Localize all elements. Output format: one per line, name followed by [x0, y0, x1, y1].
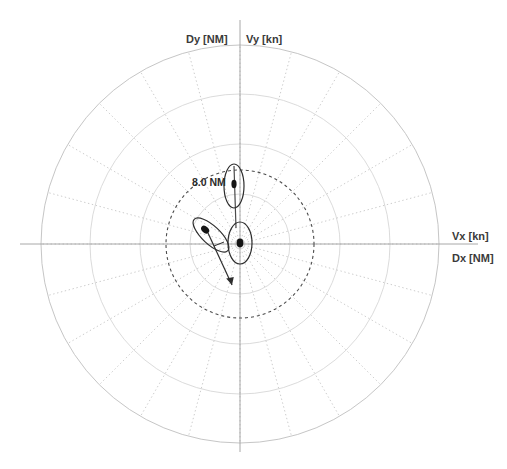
spoke-150	[68, 145, 240, 245]
spoke-210	[68, 244, 240, 344]
polar-chart-canvas: Dy [NM] Vy [kn] Vx [kn] Dx [NM] 8.0 NM	[0, 0, 507, 469]
polar-plot: Dy [NM] Vy [kn] Vx [kn] Dx [NM] 8.0 NM	[0, 0, 507, 469]
axis-label-dx: Dx [NM]	[452, 252, 494, 264]
spoke-15	[240, 192, 432, 244]
axis-label-dy: Dy [NM]	[186, 33, 228, 45]
uncertainty-ellipse-west	[188, 213, 234, 258]
spoke-300	[240, 244, 340, 416]
spoke-60	[240, 72, 340, 244]
spoke-120	[141, 72, 241, 244]
spoke-105	[188, 52, 240, 244]
spoke-255	[188, 244, 240, 436]
spoke-330	[240, 244, 412, 344]
spoke-315	[240, 244, 381, 385]
velocity-vector-head	[226, 277, 234, 285]
velocity-vector-arrow	[208, 233, 234, 285]
spoke-345	[240, 244, 432, 296]
range-ring-annotation: 8.0 NM	[192, 176, 226, 188]
contact-dot-center	[237, 239, 244, 248]
contact-dot-north	[231, 180, 236, 188]
spoke-195	[48, 244, 240, 296]
spoke-285	[240, 244, 292, 436]
axis-label-vy: Vy [kn]	[246, 33, 283, 45]
axis-label-vx: Vx [kn]	[452, 230, 489, 242]
spoke-165	[48, 192, 240, 244]
spoke-45	[240, 103, 381, 244]
spoke-30	[240, 145, 412, 245]
contact-west-marker[interactable]	[188, 213, 234, 258]
spoke-75	[240, 52, 292, 244]
range-stem	[234, 166, 236, 228]
